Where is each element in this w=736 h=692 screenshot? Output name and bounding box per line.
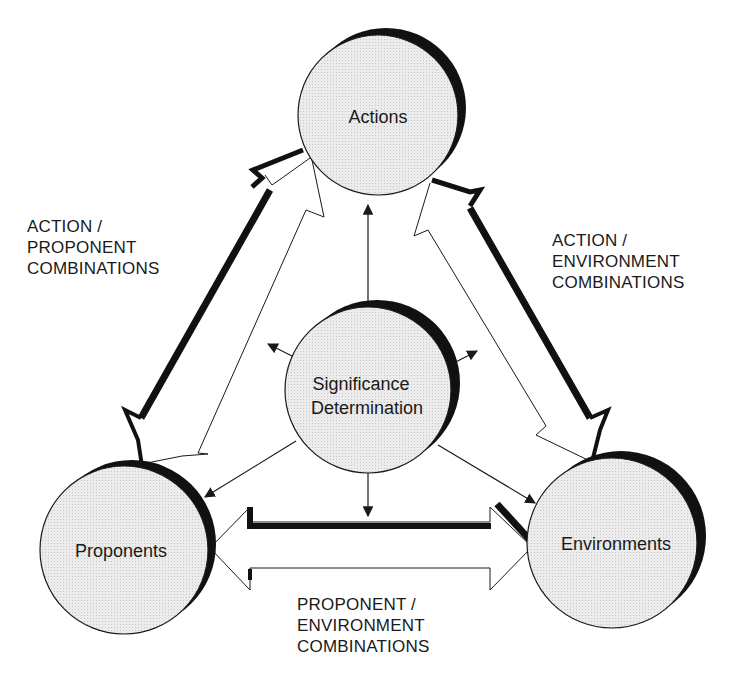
label-action-proponent: ACTION / PROPONENT COMBINATIONS: [27, 216, 159, 279]
label-line: ACTION /: [27, 216, 159, 237]
node-label-significance-1: Significance: [312, 374, 409, 394]
label-line: PROPONENT: [27, 237, 159, 258]
node-label-actions: Actions: [348, 107, 407, 127]
label-line: COMBINATIONS: [552, 272, 684, 293]
label-line: COMBINATIONS: [27, 258, 159, 279]
node-label-proponents: Proponents: [75, 541, 167, 561]
node-actions[interactable]: Actions: [298, 28, 466, 195]
label-proponent-environment: PROPONENT / ENVIRONMENT COMBINATIONS: [297, 594, 429, 657]
node-environments[interactable]: Environments: [527, 451, 706, 628]
diagram-canvas: Actions Significance Determination Propo…: [0, 0, 736, 692]
label-action-environment: ACTION / ENVIRONMENT COMBINATIONS: [552, 230, 684, 293]
node-label-environments: Environments: [561, 534, 671, 554]
node-label-significance-2: Determination: [311, 398, 423, 418]
label-line: ENVIRONMENT: [552, 251, 684, 272]
arrow-proponent-environment: [210, 504, 532, 590]
label-line: ACTION /: [552, 230, 684, 251]
label-line: ENVIRONMENT: [297, 615, 429, 636]
label-line: PROPONENT /: [297, 594, 429, 615]
node-significance[interactable]: Significance Determination: [285, 300, 460, 473]
node-proponents[interactable]: Proponents: [40, 460, 216, 634]
label-line: COMBINATIONS: [297, 636, 429, 657]
